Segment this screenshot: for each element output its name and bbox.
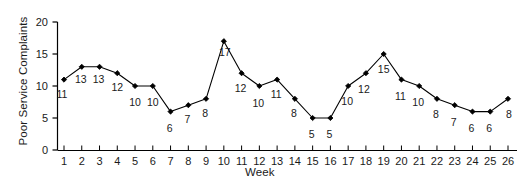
data-point-label: 10 [253, 97, 265, 109]
data-point-label: 7 [184, 113, 190, 125]
data-point-label: 7 [451, 116, 457, 128]
data-point-label: 13 [93, 73, 105, 85]
data-point-label: 17 [219, 46, 231, 58]
x-axis-title: Week [245, 166, 275, 178]
axis-lines [58, 22, 518, 151]
x-tick-label: 14 [289, 155, 301, 167]
data-point-label: 12 [111, 81, 123, 93]
data-point-label: 8 [291, 107, 297, 119]
y-axis-ticks [53, 22, 58, 150]
y-tick-label: 5 [42, 112, 48, 124]
data-point-label: 10 [341, 95, 353, 107]
data-point-label: 10 [129, 96, 141, 108]
data-point-marker [470, 109, 475, 114]
y-tick-label: 15 [36, 48, 48, 60]
x-tick-label: 22 [431, 155, 443, 167]
data-point-label: 11 [57, 88, 68, 100]
data-point-labels: 1113131210106781712101185510121511108766… [57, 46, 513, 140]
x-tick-label: 15 [307, 155, 319, 167]
y-tick-label: 20 [36, 16, 48, 28]
data-point-label: 5 [326, 128, 332, 140]
x-tick-label: 21 [413, 155, 425, 167]
data-point-label: 8 [433, 108, 439, 120]
x-tick-label: 17 [342, 155, 354, 167]
x-tick-label: 25 [484, 155, 496, 167]
data-point-label: 15 [378, 63, 390, 75]
data-point-marker [97, 64, 102, 69]
x-tick-label: 16 [324, 155, 336, 167]
x-tick-label: 1 [61, 155, 67, 167]
data-point-label: 6 [486, 122, 492, 134]
data-point-marker [221, 39, 226, 44]
x-tick-label: 26 [502, 155, 514, 167]
x-tick-label: 2 [79, 155, 85, 167]
y-tick-label: 0 [42, 144, 48, 156]
x-tick-label: 6 [150, 155, 156, 167]
line-chart-figure: 05101520 1234567891011121314151617181920… [0, 0, 532, 190]
x-axis-tick-labels: 1234567891011121314151617181920212223242… [61, 155, 514, 167]
data-point-label: 6 [469, 122, 475, 134]
data-point-label: 8 [506, 108, 512, 120]
data-point-label: 5 [309, 128, 315, 140]
x-tick-label: 18 [360, 155, 372, 167]
x-tick-label: 19 [378, 155, 390, 167]
x-axis-ticks [64, 146, 508, 151]
x-tick-label: 5 [132, 155, 138, 167]
x-tick-label: 7 [167, 155, 173, 167]
x-tick-label: 3 [96, 155, 102, 167]
data-point-marker [186, 103, 191, 108]
x-tick-label: 8 [185, 155, 191, 167]
data-point-label: 11 [395, 90, 406, 102]
y-tick-label: 10 [36, 80, 48, 92]
data-point-marker [203, 96, 208, 101]
data-point-label: 11 [271, 88, 282, 100]
data-point-label: 13 [75, 73, 87, 85]
chart-plot-area: 05101520 1234567891011121314151617181920… [0, 0, 532, 190]
x-tick-label: 24 [466, 155, 478, 167]
x-tick-label: 23 [449, 155, 461, 167]
data-point-label: 6 [167, 122, 173, 134]
data-point-label: 12 [358, 83, 370, 95]
x-tick-label: 10 [218, 155, 230, 167]
data-point-label: 10 [147, 96, 159, 108]
x-tick-label: 20 [395, 155, 407, 167]
y-axis-title: Poor Service Complaints [14, 0, 32, 176]
data-point-label: 8 [202, 107, 208, 119]
x-tick-label: 4 [114, 155, 120, 167]
data-point-markers [61, 39, 510, 121]
x-tick-label: 9 [203, 155, 209, 167]
data-point-marker [452, 103, 457, 108]
y-axis-tick-labels: 05101520 [36, 16, 48, 156]
data-point-marker [328, 115, 333, 120]
data-point-label: 12 [235, 82, 247, 94]
data-point-label: 10 [412, 96, 424, 108]
